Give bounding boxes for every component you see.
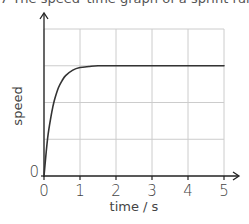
x-axis-title: time / s bbox=[110, 199, 159, 214]
speed-time-chart: 0123450 time / s speed bbox=[0, 0, 249, 224]
grid bbox=[44, 29, 224, 176]
y-tick-label: 0 bbox=[29, 163, 39, 181]
x-tick-label: 2 bbox=[111, 182, 121, 200]
x-tick-label: 1 bbox=[75, 182, 85, 200]
axes bbox=[40, 13, 239, 180]
x-tick-label: 0 bbox=[39, 182, 49, 200]
x-tick-label: 4 bbox=[183, 182, 193, 200]
plot-area bbox=[44, 66, 224, 176]
speed-curve bbox=[44, 66, 224, 176]
tick-labels: 0123450 bbox=[29, 163, 228, 200]
y-axis-title: speed bbox=[10, 86, 25, 125]
x-tick-label: 5 bbox=[219, 182, 229, 200]
x-tick-label: 3 bbox=[147, 182, 157, 200]
